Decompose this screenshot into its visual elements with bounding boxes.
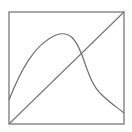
bell-curve xyxy=(9,34,124,113)
diagonal-line xyxy=(9,12,124,124)
diagram-svg xyxy=(0,0,132,132)
diagram-canvas xyxy=(0,0,132,132)
